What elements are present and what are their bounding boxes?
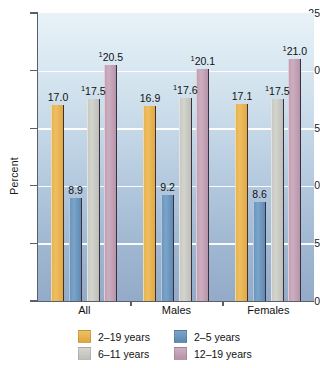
mauve-swatch-icon <box>174 347 187 360</box>
bar-value-label: 120.5 <box>98 52 123 63</box>
bar <box>69 198 82 301</box>
y-tick-mark <box>30 243 38 244</box>
y-tick-mark <box>30 70 38 71</box>
legend-label: 6–11 years <box>98 348 149 360</box>
y-tick-mark <box>30 12 38 13</box>
y-tick-mark <box>30 128 38 129</box>
bar-value-label: 17.0 <box>48 92 68 103</box>
bar-value-label: 8.9 <box>68 185 83 196</box>
gridline <box>38 71 314 73</box>
plot-area <box>38 13 314 301</box>
bar-chart: Percent 0510152025 17.08.9117.5120.516.9… <box>0 0 320 368</box>
legend-item-0[interactable]: 2–19 years <box>78 330 150 343</box>
group-label: Males <box>130 304 222 316</box>
bar-value-label: 16.9 <box>140 93 160 104</box>
legend-item-2[interactable]: 6–11 years <box>78 347 150 360</box>
bar <box>271 99 284 301</box>
legend-label: 2–5 years <box>194 331 240 343</box>
bar <box>288 59 301 301</box>
bar <box>143 106 156 301</box>
y-tick-mark <box>30 300 38 301</box>
bar-value-label: 117.5 <box>81 86 106 97</box>
legend-label: 12–19 years <box>194 348 252 360</box>
bar-value-label: 17.1 <box>232 91 252 102</box>
bar-value-label: 117.5 <box>265 86 290 97</box>
gray-swatch-icon <box>78 347 91 360</box>
y-axis-title: Percent <box>8 141 20 211</box>
y-tick-mark <box>30 185 38 186</box>
legend-label: 2–19 years <box>98 331 150 343</box>
legend-item-1[interactable]: 2–5 years <box>174 330 252 343</box>
group-label: Females <box>222 304 314 316</box>
bar-value-label: 8.6 <box>252 189 267 200</box>
bar <box>104 65 117 301</box>
bar <box>179 98 192 301</box>
goldenrod-swatch-icon <box>78 330 91 343</box>
bar-value-label: 120.1 <box>190 56 215 67</box>
bar <box>161 195 174 301</box>
legend-item-3[interactable]: 12–19 years <box>174 347 252 360</box>
bar-value-label: 121.0 <box>282 46 307 57</box>
bar <box>196 69 209 301</box>
bar <box>235 104 248 301</box>
group-label: All <box>38 304 130 316</box>
bar <box>253 202 266 301</box>
bar <box>51 105 64 301</box>
steelblue-swatch-icon <box>174 330 187 343</box>
bar-value-label: 9.2 <box>160 182 175 193</box>
legend: 2–19 years 2–5 years 6–11 years 12–19 ye… <box>78 330 252 360</box>
bar <box>87 99 100 301</box>
bar-value-label: 117.6 <box>173 85 198 96</box>
